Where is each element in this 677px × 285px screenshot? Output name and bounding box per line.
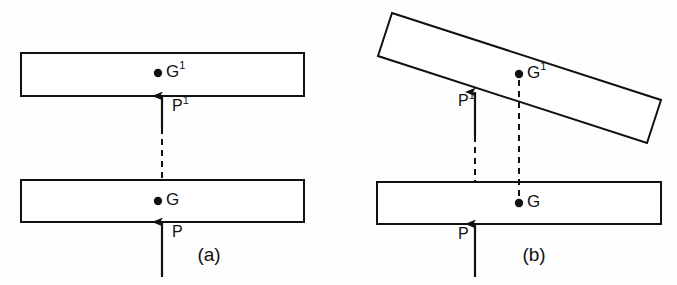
upper-plate xyxy=(21,53,304,96)
centroid-G-prime-dot xyxy=(515,70,523,78)
figure-root: P1PG1G(a)P1PG1G(b) xyxy=(0,0,677,285)
centroid-G-label: G xyxy=(527,192,540,211)
panels-group: P1PG1G(a)P1PG1G(b) xyxy=(21,13,661,277)
force-p-prime-label: P1 xyxy=(458,89,475,109)
centroid-G-dot xyxy=(154,197,162,205)
force-p-label: P xyxy=(458,225,469,242)
centroid-G-dot xyxy=(515,199,523,207)
lower-plate xyxy=(21,180,304,222)
centroid-G-prime-dot xyxy=(154,69,162,77)
panel-caption-b: (b) xyxy=(522,244,545,265)
panel-b: P1PG1G(b) xyxy=(377,13,661,277)
force-p-prime-label: P1 xyxy=(172,94,189,114)
centroid-G-label: G xyxy=(166,190,179,209)
force-p-label: P xyxy=(172,223,183,240)
panel-caption-a: (a) xyxy=(197,244,220,265)
panel-a: P1PG1G(a) xyxy=(21,53,304,277)
figure-canvas: P1PG1G(a)P1PG1G(b) xyxy=(0,0,677,285)
